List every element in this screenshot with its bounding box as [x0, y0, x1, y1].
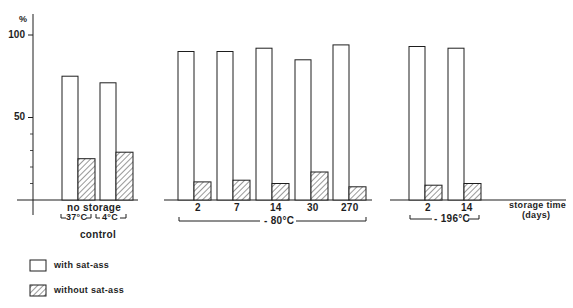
- label-m80-cat-2: 2: [195, 202, 201, 213]
- legend-swatch-without: [30, 285, 46, 296]
- bar-with-d270: [333, 45, 349, 200]
- y-tick-50: 50: [1, 111, 25, 122]
- bar-without-37C: [78, 159, 95, 200]
- bar-without-d7: [233, 180, 250, 200]
- bar-with-d30: [295, 60, 311, 200]
- label-37C: 37°C: [66, 212, 87, 222]
- label-m80-cat-14: 14: [270, 202, 282, 213]
- bar-without-d30: [311, 172, 328, 200]
- legend-label-with: with sat-ass: [54, 260, 109, 270]
- bars-control: [62, 76, 133, 200]
- bar-with-196-d2: [409, 47, 425, 201]
- bar-without-196-d14: [464, 184, 481, 201]
- label-control: control: [80, 229, 116, 240]
- bar-with-d2: [178, 52, 194, 201]
- bar-with-d7: [217, 52, 233, 201]
- label-m196-cat-2: 2: [425, 202, 431, 213]
- y-tick-100: 100: [1, 29, 25, 40]
- x-axis-title: storage time: [509, 200, 566, 210]
- label-m80-cat-30: 30: [307, 202, 319, 213]
- bar-with-196-d14: [448, 48, 464, 200]
- bar-without-4C: [116, 152, 133, 200]
- label-m80-cat-270: 270: [341, 202, 359, 213]
- label-4C: 4°C: [102, 212, 118, 222]
- bar-without-196-d2: [425, 185, 442, 200]
- bar-without-d270: [349, 187, 366, 200]
- bars-minus80: [178, 45, 366, 200]
- x-axis-units: (days): [522, 210, 550, 220]
- bar-with-d14: [256, 48, 272, 200]
- legend-label-without: without sat-ass: [54, 285, 124, 295]
- legend-swatch-with: [30, 260, 46, 271]
- label-m80-cat-7: 7: [234, 202, 240, 213]
- label-minus80: - 80°C: [264, 215, 294, 226]
- bar-with-37C: [62, 76, 78, 200]
- bar-with-4C: [100, 83, 116, 200]
- label-m196-cat-14: 14: [461, 202, 473, 213]
- bars-minus196: [409, 47, 481, 201]
- label-minus196: - 196°C: [434, 213, 470, 224]
- bar-without-d14: [272, 184, 289, 201]
- bar-without-d2: [194, 182, 211, 200]
- y-unit-label: %: [19, 14, 27, 24]
